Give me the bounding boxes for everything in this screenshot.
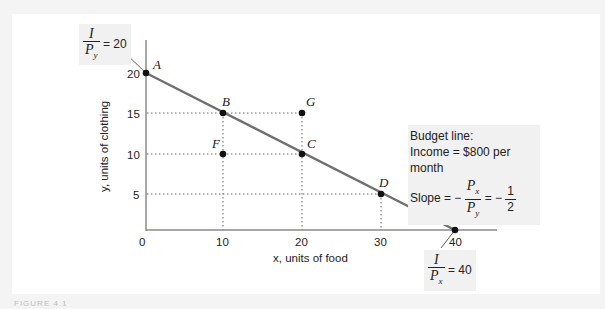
x-intercept-den-sub: x bbox=[439, 276, 443, 286]
slope-den-sub: y bbox=[475, 208, 479, 218]
y-intercept-value: = 20 bbox=[103, 37, 127, 51]
point-a bbox=[143, 70, 150, 77]
x-axis-label: x, units of food bbox=[273, 252, 348, 264]
y-tick-5: 5 bbox=[133, 189, 139, 201]
x-intercept-den: P bbox=[430, 268, 439, 283]
budget-note-slope: Slope = − Px Py = − 1 2 bbox=[410, 178, 538, 221]
point-label-g: G bbox=[306, 94, 316, 109]
y-axis-label: y, units of clothing bbox=[98, 101, 110, 192]
y-tick-20: 20 bbox=[127, 68, 140, 80]
budget-note-title: Budget line: bbox=[410, 128, 538, 144]
point-label-b: B bbox=[222, 94, 230, 109]
x-tick-20: 20 bbox=[295, 236, 308, 248]
point-c bbox=[299, 151, 306, 158]
point-label-c: C bbox=[307, 136, 316, 151]
slope-mid: = − bbox=[485, 191, 502, 205]
y-intercept-den: P bbox=[85, 42, 94, 57]
x-intercept-num: I bbox=[428, 252, 445, 268]
y-intercept-num: I bbox=[83, 26, 100, 42]
budget-line-note: Budget line: Income = $800 per month Slo… bbox=[408, 125, 540, 225]
x-tick-40: 40 bbox=[449, 236, 462, 248]
y-tick-10: 10 bbox=[127, 149, 140, 161]
slope-val-num: 1 bbox=[505, 184, 516, 200]
x-intercept-value: = 40 bbox=[448, 263, 472, 277]
slope-val-den: 2 bbox=[505, 200, 516, 215]
figure-caption: FIGURE 4.1 bbox=[14, 299, 68, 308]
point-label-d: D bbox=[378, 175, 389, 190]
slope-num-sub: x bbox=[475, 186, 479, 196]
point-d bbox=[378, 191, 385, 198]
slope-prefix: Slope = − bbox=[410, 191, 461, 205]
point-b bbox=[220, 110, 227, 117]
point-f bbox=[220, 151, 227, 158]
y-tick-15: 15 bbox=[127, 108, 140, 120]
x-tick-10: 10 bbox=[216, 236, 229, 248]
point-label-a: A bbox=[152, 57, 161, 72]
x-intercept-annotation: I Px = 40 bbox=[424, 250, 476, 291]
x-tick-0: 0 bbox=[139, 236, 145, 248]
y-intercept-annotation: I Py = 20 bbox=[79, 24, 131, 65]
budget-note-income: Income = $800 per month bbox=[410, 144, 538, 176]
x-tick-30: 30 bbox=[374, 236, 387, 248]
guide-lines bbox=[147, 113, 381, 230]
slope-den: P bbox=[467, 200, 476, 215]
point-e bbox=[452, 227, 459, 234]
point-label-f: F bbox=[211, 136, 221, 151]
point-g bbox=[299, 110, 306, 117]
slope-num: P bbox=[467, 178, 476, 193]
y-intercept-den-sub: y bbox=[94, 50, 98, 60]
